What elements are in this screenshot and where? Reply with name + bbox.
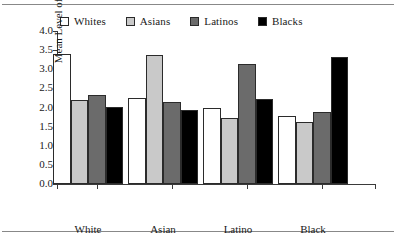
y-tick-label: 1.5 <box>27 120 53 132</box>
legend-item-label: Asians <box>140 16 171 27</box>
x-axis-label-line2: Friends <box>123 236 203 237</box>
x-axis-label-line1: White <box>48 223 128 236</box>
legend-swatch-latinos <box>190 17 199 26</box>
y-axis-title: Mean Level of Friends <box>52 0 64 83</box>
bar <box>203 108 221 184</box>
legend-item-label: Blacks <box>272 16 303 27</box>
legend-item: Asians <box>126 16 171 27</box>
bar <box>163 102 181 184</box>
legend-item: Latinos <box>190 16 238 27</box>
bar <box>106 107 124 184</box>
bar <box>313 112 331 184</box>
bar <box>221 118 239 184</box>
bar <box>238 64 256 184</box>
legend-item-label: Whites <box>74 16 106 27</box>
legend-swatch-blacks <box>258 17 267 26</box>
y-tick-label: 3.5 <box>27 43 53 55</box>
legend-item: Blacks <box>258 16 303 27</box>
plot-area: 0.00.51.01.52.02.53.03.54.0 WhiteFriends… <box>57 31 375 184</box>
y-tick-label: 2.5 <box>27 81 53 93</box>
x-tick-mark <box>247 184 248 189</box>
x-axis-label: BlackFriends <box>273 223 353 237</box>
legend-swatch-asians <box>126 17 135 26</box>
figure: WhitesAsiansLatinosBlacks 0.00.51.01.52.… <box>0 0 396 237</box>
x-axis-label-line1: Latino <box>198 223 278 236</box>
bar <box>181 110 199 184</box>
y-tick-label: 3.0 <box>27 62 53 74</box>
x-axis-label-line1: Black <box>273 223 353 236</box>
bar <box>296 122 314 184</box>
bar <box>278 116 296 184</box>
x-tick-mark <box>172 184 173 189</box>
y-tick-label: 0.0 <box>27 177 53 189</box>
x-axis-label: LatinoFriends <box>198 223 278 237</box>
y-tick-label: 1.0 <box>27 139 53 151</box>
bar <box>331 57 349 184</box>
legend-item-label: Latinos <box>204 16 238 27</box>
bar <box>88 95 106 185</box>
x-tick-mark <box>97 184 98 189</box>
x-axis-label: WhiteFriends <box>48 223 128 237</box>
bar <box>128 98 146 184</box>
x-axis-line <box>57 184 375 185</box>
y-tick-label: 4.0 <box>27 24 53 36</box>
x-tick-mark <box>322 184 323 189</box>
bar <box>256 99 274 184</box>
x-axis-label-line2: Friends <box>48 236 128 237</box>
bar <box>146 55 164 184</box>
y-tick-label: 0.5 <box>27 158 53 170</box>
bar-group <box>278 31 348 184</box>
x-axis-label-line1: Asian <box>123 223 203 236</box>
x-tick-mark <box>57 184 58 189</box>
bar-group <box>128 31 198 184</box>
x-axis-label-line2: Friends <box>198 236 278 237</box>
chart-legend: WhitesAsiansLatinosBlacks <box>60 12 380 30</box>
bar <box>71 100 89 184</box>
x-tick-mark <box>375 184 376 189</box>
x-axis-label: AsianFriends <box>123 223 203 237</box>
x-axis-label-line2: Friends <box>273 236 353 237</box>
bar-group <box>203 31 273 184</box>
legend-item: Whites <box>60 16 106 27</box>
y-tick-label: 2.0 <box>27 101 53 113</box>
